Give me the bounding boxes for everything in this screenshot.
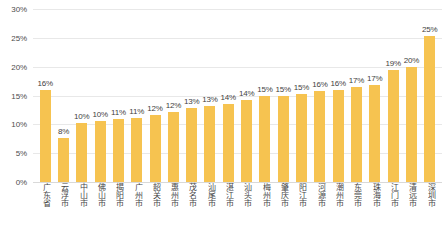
bar[interactable]: 16% <box>314 91 325 182</box>
bar[interactable]: 16% <box>333 90 344 182</box>
bar-value-label: 12% <box>166 101 181 110</box>
bar-slot: 11% <box>109 9 127 182</box>
x-tick-label: 中山市 <box>77 183 86 208</box>
bar[interactable]: 10% <box>95 121 106 182</box>
bar-value-label: 11% <box>129 107 144 116</box>
x-slot: 云浮市 <box>54 183 72 225</box>
bar-slot: 14% <box>219 9 237 182</box>
x-tick-label: 阳江市 <box>297 183 306 208</box>
bar[interactable]: 17% <box>369 85 380 182</box>
x-slot: 佛山市 <box>91 183 109 225</box>
bar[interactable]: 25% <box>424 36 435 182</box>
bar[interactable]: 19% <box>388 70 399 182</box>
x-slot: 揭阳市 <box>109 183 127 225</box>
bar[interactable]: 11% <box>113 119 124 182</box>
x-slot: 深圳市 <box>421 183 439 225</box>
bar-slot: 13% <box>201 9 219 182</box>
x-tick-label: 汕尾市 <box>206 183 215 208</box>
x-tick-label: 湛江市 <box>224 183 233 208</box>
bar[interactable]: 16% <box>40 90 51 182</box>
bar-slot: 17% <box>347 9 365 182</box>
bar-slot: 12% <box>146 9 164 182</box>
x-tick-label: 云浮市 <box>59 183 68 208</box>
bar-value-label: 13% <box>184 97 199 106</box>
bar[interactable]: 12% <box>168 112 179 182</box>
y-tick-label: 5% <box>16 149 27 158</box>
x-tick-label: 佛山市 <box>96 183 105 208</box>
bar-value-label: 16% <box>330 79 345 88</box>
bar-slot: 15% <box>256 9 274 182</box>
x-tick-label: 揭阳市 <box>114 183 123 208</box>
x-tick-label: 广州市 <box>132 183 141 208</box>
bar[interactable]: 14% <box>223 104 234 182</box>
bar[interactable]: 20% <box>406 67 417 182</box>
x-tick-label: 潮州市 <box>334 183 343 208</box>
bar-slot: 13% <box>183 9 201 182</box>
y-tick-label: 10% <box>11 120 27 129</box>
bar[interactable]: 17% <box>351 87 362 182</box>
bar-slot: 10% <box>73 9 91 182</box>
bar-value-label: 16% <box>37 79 52 88</box>
bar-slot: 16% <box>311 9 329 182</box>
bar-value-label: 13% <box>202 95 217 104</box>
x-tick-label: 汕头市 <box>242 183 251 208</box>
x-slot: 潮州市 <box>329 183 347 225</box>
x-slot: 湛江市 <box>219 183 237 225</box>
bar-slot: 12% <box>164 9 182 182</box>
chart-caption <box>0 222 445 232</box>
plot-area: 16%8%10%10%11%11%12%12%13%13%14%14%15%15… <box>33 9 442 182</box>
y-tick-label: 15% <box>11 91 27 100</box>
bar-value-label: 10% <box>92 110 107 119</box>
bar-slot: 15% <box>274 9 292 182</box>
bar-slot: 17% <box>366 9 384 182</box>
bar[interactable]: 15% <box>296 94 307 182</box>
bar[interactable]: 8% <box>58 138 69 182</box>
y-tick-label: 30% <box>11 5 27 14</box>
bar-value-label: 25% <box>422 25 437 34</box>
bar-slot: 16% <box>36 9 54 182</box>
x-tick-label: 梅州市 <box>261 183 270 208</box>
bar-chart: 0%5%10%15%20%25%30% 16%8%10%10%11%11%12%… <box>0 0 445 232</box>
bar[interactable]: 14% <box>241 100 252 182</box>
bar[interactable]: 10% <box>76 123 87 182</box>
x-slot: 江门市 <box>384 183 402 225</box>
x-tick-label: 河源市 <box>316 183 325 208</box>
x-axis: 广东省云浮市中山市佛山市揭阳市广州市韶关市惠州市茂名市汕尾市湛江市汕头市梅州市肇… <box>33 183 442 225</box>
x-tick-label: 江门市 <box>389 183 398 208</box>
bar-slot: 16% <box>329 9 347 182</box>
bar[interactable]: 11% <box>131 118 142 182</box>
x-slot: 肇庆市 <box>274 183 292 225</box>
x-slot: 广州市 <box>128 183 146 225</box>
bar[interactable]: 12% <box>150 115 161 182</box>
x-tick-label: 茂名市 <box>187 183 196 208</box>
bar-value-label: 12% <box>147 104 162 113</box>
y-tick-label: 0% <box>16 178 27 187</box>
x-slot: 中山市 <box>73 183 91 225</box>
bar-value-label: 17% <box>349 76 364 85</box>
bar-slot: 25% <box>421 9 439 182</box>
x-tick-label: 韶关市 <box>151 183 160 208</box>
bar-slot: 11% <box>128 9 146 182</box>
x-tick-label: 东莞市 <box>352 183 361 208</box>
bar-value-label: 11% <box>111 108 126 117</box>
bar[interactable]: 13% <box>204 106 215 182</box>
bar-value-label: 15% <box>276 85 291 94</box>
x-tick-label: 深圳市 <box>425 183 434 208</box>
bar-value-label: 8% <box>58 127 69 136</box>
bar[interactable]: 13% <box>186 108 197 182</box>
x-slot: 河源市 <box>311 183 329 225</box>
bar-slot: 14% <box>237 9 255 182</box>
bar-slot: 15% <box>292 9 310 182</box>
bar-value-label: 14% <box>221 93 236 102</box>
x-slot: 梅州市 <box>256 183 274 225</box>
x-tick-label: 珠海市 <box>370 183 379 208</box>
bar[interactable]: 15% <box>278 96 289 182</box>
bar[interactable]: 15% <box>259 96 270 182</box>
bar-value-label: 15% <box>294 83 309 92</box>
x-tick-label: 肇庆市 <box>279 183 288 208</box>
x-slot: 茂名市 <box>183 183 201 225</box>
x-tick-label: 广东省 <box>41 183 50 208</box>
bar-value-label: 16% <box>312 80 327 89</box>
bar-value-label: 17% <box>367 74 382 83</box>
bar-slot: 10% <box>91 9 109 182</box>
